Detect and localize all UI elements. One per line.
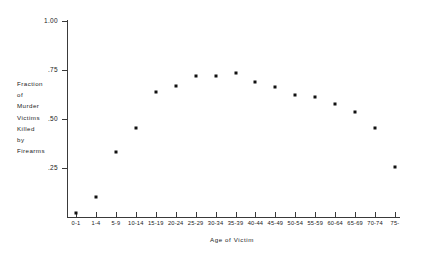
y-axis-title-line: Fraction — [17, 78, 63, 89]
x-axis-tick-label: 45-49 — [268, 220, 284, 226]
x-axis-tick-label: 15-19 — [148, 220, 164, 226]
data-point — [114, 151, 117, 154]
x-axis-tick-label: 10-14 — [128, 220, 144, 226]
data-point — [134, 126, 137, 129]
data-point — [254, 80, 257, 83]
x-axis-tick-label: 65-69 — [347, 220, 363, 226]
y-axis-title-line: of — [17, 89, 63, 100]
y-axis-title-line: Victims — [17, 112, 63, 123]
x-axis-tick-label: 30-34 — [208, 220, 224, 226]
data-point — [334, 103, 337, 106]
data-point — [174, 84, 177, 87]
x-axis-tick-label: 25-29 — [188, 220, 204, 226]
y-axis-title: FractionofMurderVictimsKilledbyFirearms — [17, 78, 63, 156]
x-axis-tick-label: 70-74 — [367, 220, 383, 226]
data-point — [294, 93, 297, 96]
y-axis-tick-label-text: .75 — [24, 66, 58, 73]
y-axis-tick-label-text: .25 — [24, 164, 58, 171]
murder-victims-firearms-scatter-chart: 1.00.75.50.25 0-11-45-910-1415-1920-2425… — [0, 0, 432, 257]
y-axis-title-line: Killed — [17, 123, 63, 134]
x-axis-tick-label: 40-44 — [248, 220, 264, 226]
y-axis-title-line: Murder — [17, 100, 63, 111]
data-point — [314, 96, 317, 99]
x-axis-title: Age of Victim — [0, 236, 432, 243]
data-point — [94, 196, 97, 199]
plot-area — [67, 20, 400, 218]
data-point — [354, 111, 357, 114]
data-point — [274, 85, 277, 88]
x-axis-tick-label: 5-9 — [111, 220, 120, 226]
data-point — [75, 212, 78, 215]
x-axis-tick-label: 20-24 — [168, 220, 184, 226]
data-point — [394, 166, 397, 169]
x-axis-tick-label: 50-54 — [288, 220, 304, 226]
data-point — [374, 126, 377, 129]
x-axis-tick-label: 75- — [391, 220, 400, 226]
y-axis-title-line: Firearms — [17, 145, 63, 156]
data-point — [154, 90, 157, 93]
x-axis-tick-label: 55-59 — [307, 220, 323, 226]
x-axis-tick-label: 60-64 — [327, 220, 343, 226]
x-axis-tick-label: 1-4 — [92, 220, 101, 226]
y-axis-tick-label-text: 1.00 — [24, 17, 58, 24]
data-point — [234, 71, 237, 74]
data-point — [214, 74, 217, 77]
x-axis-title-text: Age of Victim — [210, 236, 254, 243]
y-axis-tick-label: 1.00 — [24, 17, 58, 26]
x-axis-tick-label: 0-1 — [72, 220, 81, 226]
y-axis-tick-label: .25 — [24, 164, 58, 173]
y-axis-title-line: by — [17, 134, 63, 145]
x-axis-tick-label: 35-39 — [228, 220, 244, 226]
y-axis-tick-label: .75 — [24, 66, 58, 75]
data-point — [194, 74, 197, 77]
